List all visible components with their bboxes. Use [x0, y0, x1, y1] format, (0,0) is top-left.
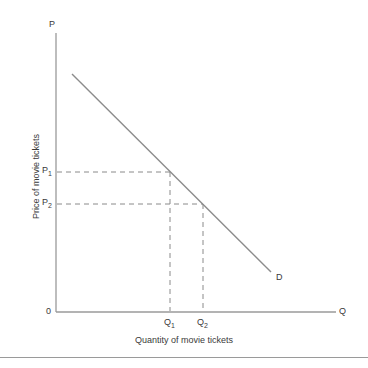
y-axis-title: Price of movie tickets: [31, 134, 41, 219]
demand-curve-figure: P Q 0 P1 P2 Q1 Q2 D Price of movie ticke…: [0, 0, 368, 368]
y-axis-tip-label: P: [49, 20, 55, 29]
price-2-label: P2: [42, 198, 52, 209]
quantity-2-label: Q2: [197, 318, 208, 329]
bottom-divider: [0, 357, 368, 358]
quantity-1-subscript: 1: [171, 322, 175, 329]
quantity-1-text: Q: [164, 317, 171, 327]
demand-curve-line: [72, 74, 271, 272]
quantity-2-text: Q: [197, 317, 204, 327]
plot-canvas: [0, 0, 368, 368]
price-1-label: P1: [42, 166, 52, 177]
price-2-subscript: 2: [48, 202, 52, 209]
x-axis-title: Quantity of movie tickets: [0, 335, 368, 345]
origin-label: 0: [46, 307, 51, 316]
quantity-1-label: Q1: [164, 318, 175, 329]
price-1-subscript: 1: [48, 170, 52, 177]
x-axis-tip-label: Q: [339, 307, 346, 316]
demand-curve-label: D: [276, 273, 283, 282]
quantity-2-subscript: 2: [204, 322, 208, 329]
